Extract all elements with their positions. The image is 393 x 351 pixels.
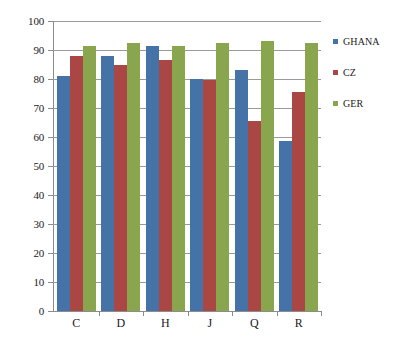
y-tick-mark [48,79,53,80]
y-tick-label: 20 [33,247,44,259]
x-tick-label: D [99,316,144,331]
y-tick-mark [48,195,53,196]
bar-ghana-d [101,56,114,311]
bar-cz-d [114,65,127,312]
bar-cz-r [292,92,305,311]
y-tick-mark [48,21,53,22]
x-axis-tick-labels: CDHJQR [54,316,321,331]
x-tick-label: C [54,316,99,331]
bar-group [188,21,233,311]
bar-cz-c [70,56,83,311]
y-tick-label: 0 [39,305,44,317]
bar-ghana-j [190,79,203,311]
legend-label: GER [343,98,363,109]
x-tick-mark [321,311,322,316]
plot-area: 0102030405060708090100 CDHJQR [0,0,330,351]
y-tick-label: 40 [33,189,44,201]
x-tick-label: R [277,316,322,331]
y-tick-mark [48,137,53,138]
y-tick-label: 30 [33,218,44,230]
y-tick-label: 60 [33,131,44,143]
y-tick-label: 90 [33,44,44,56]
legend-label: GHANA [343,36,380,47]
bar-group [54,21,99,311]
chart-legend: GHANACZGER [333,36,391,129]
bar-group [99,21,144,311]
y-tick-mark [48,50,53,51]
x-tick-label: H [143,316,188,331]
x-tick-label: J [188,316,233,331]
y-tick-mark [48,282,53,283]
y-tick-mark [48,311,53,312]
x-tick-label: Q [232,316,277,331]
bar-group [143,21,188,311]
bar-chart: 0102030405060708090100 CDHJQR GHANACZGER [0,0,393,351]
bars-container [54,21,321,311]
bar-ger-r [305,43,318,311]
bar-ger-c [83,46,96,311]
legend-item-ghana[interactable]: GHANA [333,36,391,47]
y-tick-label: 70 [33,102,44,114]
legend-label: CZ [343,67,356,78]
bar-group [232,21,277,311]
bar-ger-q [261,41,274,311]
bar-ger-j [216,43,229,311]
bar-ghana-h [146,46,159,311]
y-tick-mark [48,108,53,109]
y-tick-label: 80 [33,73,44,85]
y-tick-mark [48,253,53,254]
y-tick-label: 100 [28,15,44,27]
bar-ger-h [172,46,185,311]
bar-cz-h [159,60,172,311]
legend-item-ger[interactable]: GER [333,98,391,109]
y-tick-label: 50 [33,160,44,172]
legend-swatch-icon [333,70,338,75]
bar-ghana-q [235,70,248,311]
bar-ghana-r [279,141,292,311]
bar-ger-d [127,43,140,311]
bar-ghana-c [57,76,70,311]
bar-group [277,21,322,311]
bar-cz-q [248,121,261,311]
legend-swatch-icon [333,101,338,106]
legend-swatch-icon [333,39,338,44]
legend-item-cz[interactable]: CZ [333,67,391,78]
y-tick-label: 10 [33,276,44,288]
bar-cz-j [203,80,216,311]
y-tick-mark [48,166,53,167]
y-tick-mark [48,224,53,225]
y-axis-tick-labels: 0102030405060708090100 [18,21,44,311]
